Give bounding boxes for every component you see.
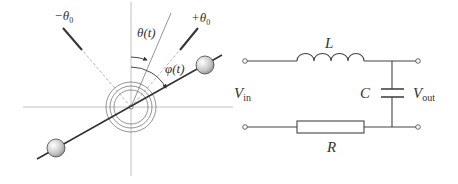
- plus-theta0-guide: [131, 50, 180, 107]
- pendulum-diagram: −θ0 +θ0 θ(t) φ(t): [23, 2, 233, 176]
- minus-theta0-limit: [63, 28, 82, 50]
- terminal-out-top: [416, 59, 421, 64]
- theta-arc: [131, 57, 147, 60]
- plus-theta0-label: +θ0: [191, 10, 210, 27]
- minus-theta0-label: −θ0: [54, 8, 73, 25]
- v-in-label: Vin: [234, 85, 251, 103]
- terminal-in-top: [243, 59, 248, 64]
- capacitor-label: C: [360, 85, 371, 101]
- phi-t-label: φ(t): [165, 61, 184, 76]
- upper-ball: [196, 56, 214, 74]
- terminal-in-bottom: [243, 125, 248, 130]
- phi-arc: [131, 67, 166, 88]
- v-out-label: Vout: [413, 85, 435, 103]
- rlc-circuit: [243, 54, 421, 134]
- resistor-label: R: [326, 139, 336, 155]
- minus-theta0-guide: [82, 50, 131, 107]
- terminal-out-bottom: [416, 125, 421, 130]
- inductor-label: L: [324, 35, 333, 51]
- plus-theta0-limit: [180, 28, 198, 50]
- resistor: [297, 121, 364, 133]
- inductor: [297, 54, 364, 62]
- theta-t-label: θ(t): [137, 25, 156, 40]
- figure: −θ0 +θ0 θ(t) φ(t) L C R Vin Vout: [0, 0, 458, 184]
- lower-ball: [47, 139, 65, 157]
